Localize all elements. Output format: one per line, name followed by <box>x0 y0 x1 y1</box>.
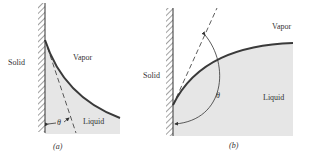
label-solid: Solid <box>8 58 25 67</box>
solid-wall-hatch <box>166 8 173 136</box>
contact-angle-diagram: Solid Vapor Liquid θ (a) Solid Vapor Liq… <box>0 0 311 161</box>
liquid-region <box>173 43 293 136</box>
solid-wall-hatch <box>38 3 45 132</box>
panel-a: Solid Vapor Liquid θ (a) <box>8 3 120 151</box>
panel-b: Solid Vapor Liquid θ (b) <box>143 8 293 150</box>
label-vapor: Vapor <box>73 53 92 62</box>
label-liquid: Liquid <box>83 117 104 126</box>
caption-a: (a) <box>53 142 63 151</box>
label-solid: Solid <box>143 71 160 80</box>
label-theta: θ <box>216 91 220 100</box>
label-vapor: Vapor <box>272 22 291 31</box>
label-theta: θ <box>57 118 61 127</box>
caption-b: (b) <box>229 141 239 150</box>
label-liquid: Liquid <box>263 93 284 102</box>
